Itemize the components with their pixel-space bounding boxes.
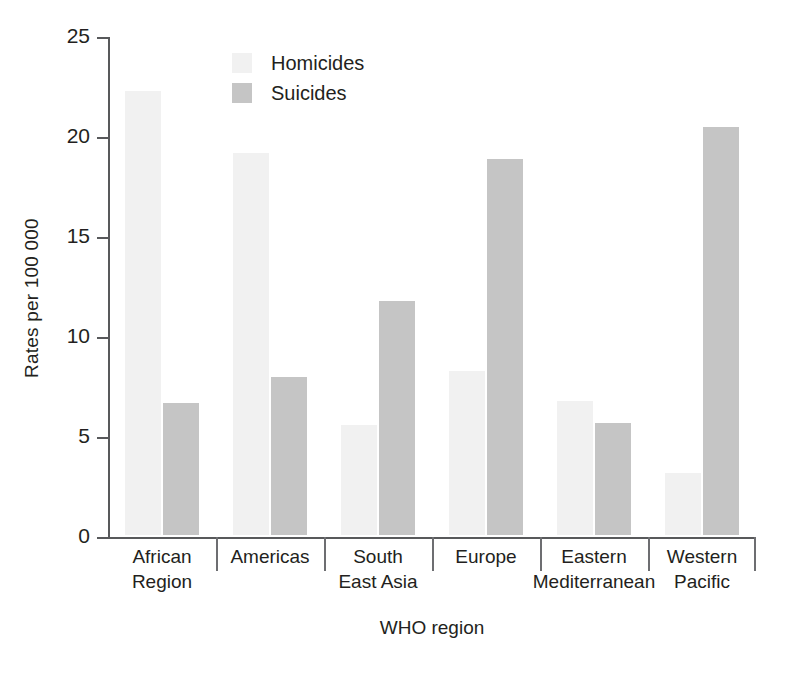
- category-label-line: East Asia: [312, 569, 444, 594]
- bar-suicides: [703, 127, 739, 535]
- bar-chart-figure: Rates per 100 000 0510152025 AfricanRegi…: [0, 0, 794, 679]
- y-axis-tick-label: 25: [67, 23, 90, 49]
- y-axis-tick-label: 0: [78, 523, 90, 549]
- y-axis-tick: 0: [97, 537, 108, 539]
- bar-homicides: [665, 473, 701, 535]
- y-axis-tick: 20: [97, 137, 108, 139]
- legend-item-homicides: Homicides: [232, 48, 364, 78]
- y-axis-tick: 15: [97, 237, 108, 239]
- y-axis-tick-label: 5: [78, 423, 90, 449]
- category-label-line: Western: [636, 544, 768, 569]
- y-axis-line: [108, 37, 110, 538]
- legend-item-suicides: Suicides: [232, 78, 364, 108]
- legend-label-homicides: Homicides: [271, 52, 364, 75]
- y-axis-tick: 10: [97, 337, 108, 339]
- bar-suicides: [379, 301, 415, 535]
- legend-swatch-homicides: [232, 53, 252, 73]
- chart-legend: Homicides Suicides: [232, 48, 364, 108]
- bar-suicides: [271, 377, 307, 535]
- bar-suicides: [163, 403, 199, 535]
- bar-homicides: [449, 371, 485, 535]
- y-axis-tick-label: 15: [67, 223, 90, 249]
- y-axis-title: Rates per 100 000: [21, 188, 43, 408]
- bar-suicides: [487, 159, 523, 535]
- bar-homicides: [233, 153, 269, 535]
- bar-suicides: [595, 423, 631, 535]
- x-axis-category-label: WesternPacific: [636, 544, 768, 594]
- bar-homicides: [341, 425, 377, 535]
- y-axis-tick: 5: [97, 437, 108, 439]
- bar-homicides: [557, 401, 593, 535]
- y-axis-tick: 25: [97, 37, 108, 39]
- category-label-line: Pacific: [636, 569, 768, 594]
- y-axis-tick-label: 20: [67, 123, 90, 149]
- y-axis-tick-label: 10: [67, 323, 90, 349]
- plot-area: 0510152025: [108, 37, 756, 537]
- legend-label-suicides: Suicides: [271, 82, 347, 105]
- x-axis-title: WHO region: [108, 617, 756, 639]
- bar-homicides: [125, 91, 161, 535]
- legend-swatch-suicides: [232, 83, 252, 103]
- category-label-line: Region: [96, 569, 228, 594]
